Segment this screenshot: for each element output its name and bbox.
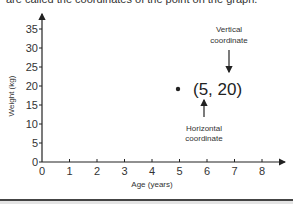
x-tick-label: 1	[66, 165, 72, 177]
y-tick-label: 10	[26, 118, 38, 130]
vertical-annotation-line2: coordinate	[210, 36, 248, 45]
y-tick-label: 20	[26, 80, 38, 92]
bottom-band	[0, 201, 293, 204]
point-label: (5, 20)	[193, 80, 242, 99]
x-tick-label: 5	[176, 165, 182, 177]
x-tick-label: 0	[39, 165, 45, 177]
horizontal-annotation-line2: coordinate	[185, 134, 223, 143]
x-axis-title: Age (years)	[131, 180, 173, 189]
x-tick-label: 2	[94, 165, 100, 177]
x-tick-label: 7	[231, 165, 237, 177]
y-tick-label: 35	[26, 23, 38, 35]
y-tick-label: 15	[26, 99, 38, 111]
x-tick-label: 4	[149, 165, 155, 177]
x-tick-label: 3	[121, 165, 127, 177]
x-tick-label: 8	[259, 165, 265, 177]
y-tick-label: 25	[26, 61, 38, 73]
y-axis-title: Weight (kg)	[7, 75, 16, 116]
y-tick-label: 30	[26, 42, 38, 54]
horizontal-annotation-line1: Horizontal	[186, 124, 222, 133]
x-tick-label: 6	[204, 165, 210, 177]
y-ticks: 05101520253035	[26, 23, 42, 168]
y-tick-label: 5	[32, 137, 38, 149]
coordinate-chart: 05101520253035 012345678 Weight (kg) Age…	[0, 0, 293, 204]
y-tick-label: 0	[32, 156, 38, 168]
data-point	[176, 87, 180, 91]
vertical-annotation-line1: Vertical	[216, 25, 242, 34]
